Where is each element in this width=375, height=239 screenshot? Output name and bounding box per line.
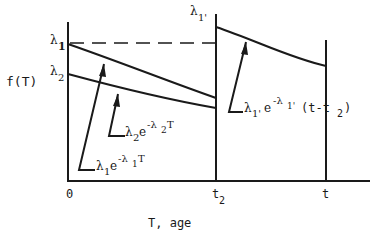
svg-text:(t-t: (t-t — [301, 101, 330, 115]
x-tick-t2-sub: 2 — [219, 195, 225, 206]
diagram-svg: f(T) λ 1 λ 2 λ 1' λ 2 e -λ 2 T λ 1 e -λ … — [0, 0, 375, 239]
curve-1-prime-label: λ 1' e -λ 1' (t-t 2 ) — [244, 95, 351, 119]
svg-text:1': 1' — [287, 101, 295, 111]
svg-text:): ) — [344, 101, 351, 115]
lambda1-prime-tick: λ — [190, 4, 198, 18]
svg-text:-λ: -λ — [273, 95, 283, 106]
svg-text:e: e — [264, 101, 271, 115]
svg-text:-λ: -λ — [118, 153, 128, 164]
x-tick-origin: 0 — [66, 187, 73, 201]
curve-1-label: λ 1 e -λ 1 T — [96, 153, 145, 177]
x-axis-label: T, age — [148, 216, 191, 230]
svg-text:λ: λ — [244, 101, 252, 115]
lambda2-tick-sub: 2 — [58, 72, 64, 83]
curve-2-label: λ 2 e -λ 2 T — [125, 119, 174, 143]
svg-text:2: 2 — [337, 108, 343, 119]
curve-1-prime — [216, 27, 326, 66]
arrow-curve-2 — [109, 94, 125, 136]
lambda1-prime-tick-sub: 1' — [198, 12, 207, 23]
y-axis-label: f(T) — [6, 74, 37, 89]
svg-text:e: e — [139, 125, 146, 139]
svg-text:λ: λ — [96, 159, 104, 173]
svg-text:1': 1' — [252, 108, 261, 119]
lambda2-tick: λ — [50, 64, 58, 78]
svg-text:λ: λ — [125, 125, 133, 139]
svg-text:-λ: -λ — [147, 119, 157, 130]
x-tick-t: t — [322, 187, 329, 201]
svg-text:e: e — [110, 159, 117, 173]
lambda1-tick-sub: 1 — [58, 40, 66, 53]
svg-text:1: 1 — [132, 159, 138, 169]
diagram-canvas: f(T) λ 1 λ 2 λ 1' λ 2 e -λ 2 T λ 1 e -λ … — [0, 0, 375, 239]
svg-text:2: 2 — [161, 125, 167, 135]
svg-text:T: T — [138, 153, 145, 164]
curve-1 — [68, 44, 216, 98]
svg-text:T: T — [167, 119, 174, 130]
lambda1-tick: λ — [50, 33, 58, 47]
